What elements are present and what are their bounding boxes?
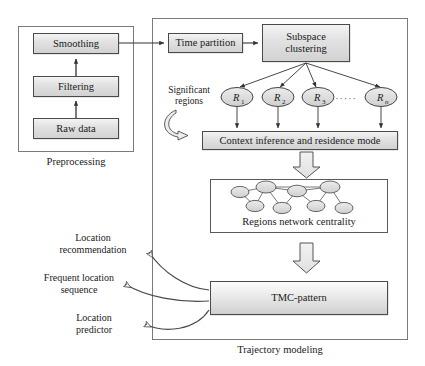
network-graph-nodes [231, 181, 353, 214]
arrow-regions-to-context [237, 107, 381, 128]
region-rn-label: R [376, 92, 384, 103]
region-r3-label: R [313, 92, 321, 103]
region-r1-sub: 1 [241, 98, 245, 106]
network-node-n1 [231, 186, 249, 197]
region-r3-sub: 3 [322, 98, 326, 106]
arrow-subspace-to-regions [240, 63, 380, 87]
network-node-n6 [273, 202, 291, 213]
network-node-n3 [288, 185, 307, 197]
network-node-n7 [307, 200, 325, 211]
significant-regions-curved-arrow [165, 110, 188, 140]
connector-layer: R 1 R 2 R 3 R n [0, 0, 425, 366]
network-node-n5 [246, 200, 264, 211]
region-r2-label: R [273, 92, 281, 103]
network-node-n4 [320, 181, 340, 193]
network-node-n8 [335, 202, 353, 213]
region-ellipse-r2[interactable]: R 2 [262, 88, 294, 107]
block-arrow-context-to-network [293, 152, 320, 178]
arrow-tmc-to-location-recommendation [149, 252, 209, 290]
region-rn-sub: n [385, 98, 389, 106]
block-arrow-network-to-tmc [293, 243, 320, 273]
region-r2-sub: 2 [282, 98, 286, 106]
arrow-tmc-to-frequent-location-sequence [125, 284, 209, 301]
diagram-canvas: Preprocessing Trajectory modeling Smooth… [0, 0, 425, 366]
region-ellipse-r3[interactable]: R 3 [302, 88, 334, 107]
region-r1-label: R [232, 92, 240, 103]
region-ellipse-r1[interactable]: R 1 [221, 88, 253, 107]
network-node-n2 [256, 181, 276, 193]
region-ellipse-rn[interactable]: R n [365, 88, 397, 107]
arrow-tmc-to-location-predictor [145, 310, 209, 329]
